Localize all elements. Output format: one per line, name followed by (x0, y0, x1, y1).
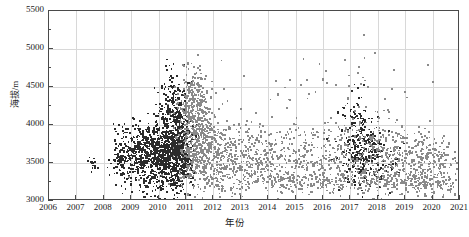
scatter-point (428, 131, 430, 133)
scatter-point (209, 118, 211, 120)
scatter-point (169, 79, 171, 81)
x-axis-tick (103, 195, 104, 200)
scatter-point (130, 183, 132, 185)
scatter-point (114, 173, 116, 175)
scatter-point (286, 107, 288, 109)
scatter-point (180, 180, 182, 182)
scatter-point (288, 149, 290, 151)
scatter-point (228, 127, 230, 129)
scatter-point (371, 118, 373, 120)
scatter-point (158, 180, 160, 182)
scatter-point (298, 149, 300, 151)
scatter-point (367, 190, 369, 192)
scatter-point (369, 186, 371, 188)
scatter-point (275, 139, 277, 141)
scatter-point (346, 171, 348, 173)
scatter-point (290, 180, 292, 182)
scatter-point (235, 163, 237, 165)
scatter-point (300, 188, 302, 190)
scatter-point (277, 158, 279, 160)
scatter-point (335, 156, 337, 158)
scatter-point (248, 150, 250, 152)
scatter-point (208, 111, 210, 113)
scatter-point (285, 187, 287, 189)
scatter-point (142, 144, 144, 146)
scatter-point (227, 160, 229, 162)
scatter-point (377, 121, 379, 123)
scatter-point (166, 69, 168, 71)
scatter-point (269, 175, 271, 177)
scatter-point (145, 162, 147, 164)
scatter-point (424, 161, 426, 163)
scatter-point (180, 112, 182, 114)
scatter-point (293, 150, 295, 152)
scatter-point (168, 172, 170, 174)
scatter-point (271, 187, 273, 189)
scatter-point (347, 103, 349, 105)
scatter-point (347, 97, 349, 99)
scatter-point (203, 116, 205, 118)
scatter-point (355, 162, 357, 164)
scatter-point (251, 167, 253, 169)
scatter-point (376, 127, 378, 129)
scatter-point (208, 147, 210, 149)
scatter-point (133, 141, 135, 143)
scatter-point (130, 177, 132, 179)
scatter-point (364, 80, 366, 82)
plot-area (48, 10, 459, 200)
scatter-point (119, 169, 121, 171)
scatter-point (339, 157, 341, 159)
scatter-point (110, 163, 112, 165)
scatter-point (339, 178, 341, 180)
scatter-point (200, 134, 202, 136)
scatter-point (167, 113, 169, 115)
scatter-point (170, 91, 172, 93)
scatter-point (169, 113, 171, 115)
scatter-point (260, 130, 262, 132)
scatter-point (454, 157, 456, 159)
scatter-point (376, 177, 378, 179)
scatter-point (197, 110, 199, 112)
scatter-point (181, 125, 183, 127)
scatter-point (442, 196, 444, 198)
scatter-point (420, 133, 422, 135)
scatter-point (234, 161, 236, 163)
scatter-point (125, 188, 127, 190)
scatter-point (437, 155, 439, 157)
scatter-point (191, 128, 193, 130)
scatter-point (225, 143, 227, 145)
scatter-point (126, 132, 128, 134)
scatter-point (142, 139, 144, 141)
scatter-point (205, 113, 207, 115)
scatter-point (158, 113, 160, 115)
scatter-point (243, 178, 245, 180)
scatter-point (159, 150, 161, 152)
scatter-point (450, 188, 452, 190)
scatter-point (440, 187, 442, 189)
gridline-horizontal (49, 125, 458, 126)
scatter-point (175, 115, 177, 117)
scatter-point (188, 112, 190, 114)
scatter-point (152, 153, 154, 155)
scatter-point (248, 153, 250, 155)
scatter-point (449, 189, 451, 191)
scatter-point (357, 171, 359, 173)
scatter-point (192, 137, 194, 139)
scatter-point (172, 109, 174, 111)
scatter-point (365, 142, 367, 144)
scatter-point (139, 190, 141, 192)
scatter-point (289, 143, 291, 145)
scatter-point (97, 167, 99, 169)
scatter-point (424, 128, 426, 130)
scatter-point (374, 52, 376, 54)
scatter-point (158, 129, 160, 131)
gridline-vertical (405, 11, 406, 199)
scatter-point (375, 175, 377, 177)
scatter-point (343, 107, 345, 109)
x-axis-tick (185, 195, 186, 200)
scatter-point (130, 163, 132, 165)
y-axis-tick (48, 200, 53, 201)
scatter-point (306, 150, 308, 152)
scatter-point (203, 178, 205, 180)
scatter-point (219, 182, 221, 184)
